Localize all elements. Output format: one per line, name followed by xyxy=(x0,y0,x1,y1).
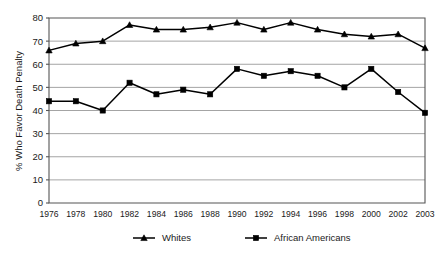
legend-item[interactable]: Whites xyxy=(133,232,191,243)
x-axis-tick-label: 1992 xyxy=(254,209,273,219)
y-axis-tick-label: 60 xyxy=(32,59,43,70)
data-point-marker xyxy=(422,110,427,115)
data-point-marker xyxy=(234,66,239,71)
data-point-marker xyxy=(154,92,159,97)
x-axis-tick-label: 1988 xyxy=(201,209,220,219)
y-axis-tick-label: 20 xyxy=(32,151,43,162)
legend-marker-icon xyxy=(253,235,258,240)
y-axis-tick-label: 40 xyxy=(32,105,43,116)
x-axis-tick-label: 2003 xyxy=(415,209,434,219)
legend-item[interactable]: African Americans xyxy=(245,232,351,243)
data-point-marker xyxy=(100,108,105,113)
x-axis-tick-label: 1976 xyxy=(39,209,58,219)
y-axis-tick-label: 70 xyxy=(32,36,43,47)
y-axis-title: % Who Favor Death Penalty xyxy=(13,51,24,171)
x-axis-tick-label: 1984 xyxy=(147,209,166,219)
data-point-marker xyxy=(73,99,78,104)
data-series-group xyxy=(46,19,428,115)
series-line xyxy=(49,23,425,51)
data-point-marker xyxy=(369,66,374,71)
data-point-marker xyxy=(181,87,186,92)
x-axis-tick-label: 2002 xyxy=(389,209,408,219)
x-axis-tick-labels: 1976197819801982198419861988199019921994… xyxy=(39,209,434,219)
data-series xyxy=(46,19,428,53)
x-axis-tick-label: 1980 xyxy=(93,209,112,219)
series-line xyxy=(49,69,425,113)
data-series xyxy=(46,66,427,115)
x-axis-tick-label: 2000 xyxy=(362,209,381,219)
data-point-marker xyxy=(261,73,266,78)
chart-legend: WhitesAfrican Americans xyxy=(133,232,351,243)
x-axis-tick-label: 1986 xyxy=(174,209,193,219)
x-axis-tick-label: 1994 xyxy=(281,209,300,219)
data-point-marker xyxy=(46,99,51,104)
data-point-marker xyxy=(342,85,347,90)
data-point-marker xyxy=(127,80,132,85)
x-axis-tick-label: 1996 xyxy=(308,209,327,219)
y-axis-tick-label: 80 xyxy=(32,12,43,23)
x-axis-tick-label: 1990 xyxy=(227,209,246,219)
data-point-marker xyxy=(288,69,293,74)
data-point-marker xyxy=(315,73,320,78)
y-axis-tick-labels: 01020304050607080 xyxy=(32,12,49,208)
y-axis-tick-label: 50 xyxy=(32,82,43,93)
legend-label: Whites xyxy=(162,232,191,243)
y-axis-tick-label: 10 xyxy=(32,174,43,185)
data-point-marker xyxy=(396,89,401,94)
x-axis-tick-label: 1978 xyxy=(66,209,85,219)
x-axis-tick-label: 1982 xyxy=(120,209,139,219)
x-axis-tick-label: 1998 xyxy=(335,209,354,219)
y-axis-title-label: % Who Favor Death Penalty xyxy=(13,51,24,171)
legend-label: African Americans xyxy=(274,232,351,243)
y-axis-tick-label: 0 xyxy=(38,197,43,208)
chart-container: % Who Favor Death Penalty 01020304050607… xyxy=(0,0,448,260)
data-point-marker xyxy=(208,92,213,97)
data-point-marker xyxy=(288,19,294,25)
line-chart: % Who Favor Death Penalty 01020304050607… xyxy=(0,0,448,260)
y-axis-tick-label: 30 xyxy=(32,128,43,139)
